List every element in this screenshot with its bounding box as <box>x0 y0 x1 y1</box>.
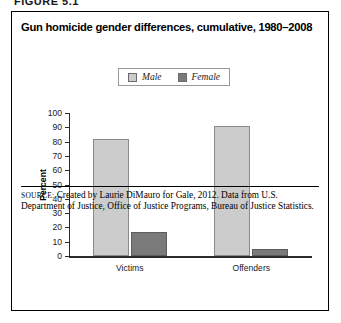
legend-swatch-male <box>128 73 137 82</box>
bar-offenders-female <box>252 249 288 256</box>
plot-area: Percent 0102030405060708090100 VictimsOf… <box>69 113 312 256</box>
y-axis-tick <box>65 170 69 171</box>
y-axis-tick-label: 100 <box>48 108 62 118</box>
source-note: Source: Created by Laurie DiMauro for Ga… <box>21 190 319 213</box>
x-axis-label: Victims <box>116 263 144 273</box>
source-label: Source: <box>21 191 54 200</box>
y-axis-tick-label: 20 <box>52 222 62 232</box>
legend-label-female: Female <box>192 72 221 82</box>
legend-item-female: Female <box>178 72 221 82</box>
y-axis-tick-label: 60 <box>52 165 62 175</box>
y-axis-tick <box>65 127 69 128</box>
y-axis-tick <box>65 156 69 157</box>
legend-label-male: Male <box>142 72 162 82</box>
y-axis-tick <box>65 213 69 214</box>
legend-item-male: Male <box>128 72 162 82</box>
x-axis-label: Offenders <box>232 263 270 273</box>
y-axis-tick <box>65 142 69 143</box>
y-axis-tick-label: 0 <box>57 251 62 261</box>
y-axis-tick <box>65 227 69 228</box>
y-axis-line <box>69 113 70 257</box>
figure-box: Gun homicide gender differences, cumulat… <box>11 11 329 311</box>
y-axis-tick-label: 70 <box>52 151 62 161</box>
y-axis-tick <box>65 242 69 243</box>
y-axis-tick-label: 50 <box>52 180 62 190</box>
y-axis-tick-label: 90 <box>52 122 62 132</box>
y-axis-tick-label: 10 <box>52 237 62 247</box>
x-axis-line <box>69 256 312 258</box>
chart-title: Gun homicide gender differences, cumulat… <box>21 21 319 33</box>
y-axis-tick <box>65 256 69 257</box>
y-axis-tick <box>65 113 69 114</box>
source-divider <box>21 186 319 187</box>
y-axis-tick-label: 80 <box>52 137 62 147</box>
legend-swatch-female <box>178 73 187 82</box>
bar-victims-female <box>131 232 167 256</box>
source-text: Created by Laurie DiMauro for Gale, 2012… <box>21 190 314 211</box>
figure-caption: FIGURE 5.1 <box>14 0 79 7</box>
chart-legend: Male Female <box>118 68 230 86</box>
